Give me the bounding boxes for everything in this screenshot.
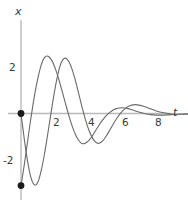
x-tick-label-8: 8 bbox=[155, 116, 162, 128]
plot-canvas bbox=[0, 0, 188, 203]
curves-group bbox=[21, 56, 188, 186]
damped-oscillation-plot: x t 2 4 6 8 2 -2 bbox=[0, 0, 188, 203]
solution-curve-2 bbox=[21, 56, 188, 186]
y-tick-label-2: 2 bbox=[9, 61, 16, 73]
solution-curve-1 bbox=[21, 58, 188, 185]
x-tick-label-4: 4 bbox=[88, 116, 95, 128]
x-axis-title: t bbox=[173, 106, 177, 119]
initial-condition-dot-1 bbox=[18, 110, 25, 117]
y-axis-title: x bbox=[15, 5, 22, 18]
x-tick-label-6: 6 bbox=[122, 116, 129, 128]
initial-condition-dot-2 bbox=[18, 182, 25, 189]
x-tick-label-2: 2 bbox=[53, 116, 60, 128]
y-tick-label-minus-2: -2 bbox=[3, 154, 13, 166]
